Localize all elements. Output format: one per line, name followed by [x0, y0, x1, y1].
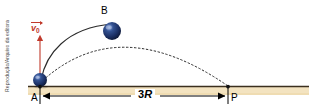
dimension-variable: R: [144, 88, 152, 100]
point-label-A: A: [31, 93, 38, 103]
ball-highlight-b: [106, 25, 112, 29]
solid-trajectory: [41, 24, 112, 80]
dashed-trajectory: [40, 47, 228, 86]
ball-sphere-b: [103, 22, 121, 40]
ground-strip-shade: [28, 93, 309, 95]
vector-subscript: 0: [36, 27, 40, 34]
dimension-label-3R: 3R: [135, 89, 155, 100]
point-marker-P: [226, 85, 230, 89]
point-label-B: B: [101, 6, 108, 16]
ball-highlight-a: [35, 76, 40, 79]
initial-velocity-label: v0: [31, 24, 40, 33]
point-marker-A: [38, 85, 42, 89]
physics-projectile-figure: Reprodução/Arquivo da editora: [0, 0, 309, 111]
ball-at-B: [103, 22, 121, 40]
point-label-P: P: [231, 93, 238, 103]
ground: [28, 87, 309, 96]
